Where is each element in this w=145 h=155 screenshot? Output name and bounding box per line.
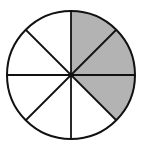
fraction-circle-diagram (0, 0, 145, 155)
center-point (69, 73, 73, 77)
